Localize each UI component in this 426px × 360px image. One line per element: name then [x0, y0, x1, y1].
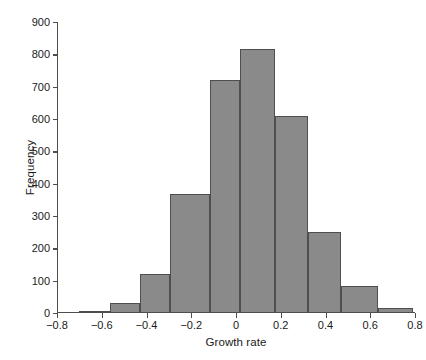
histogram-bar [170, 194, 210, 313]
x-tick-mark [236, 313, 237, 318]
y-tick-mark [53, 22, 58, 23]
y-axis-line [57, 22, 58, 313]
x-tick-label: 0.4 [318, 319, 333, 331]
histogram-bar [240, 49, 275, 313]
x-tick-label: −0.6 [91, 319, 113, 331]
y-tick-mark [53, 151, 58, 152]
y-tick-mark [53, 119, 58, 120]
x-tick-mark [326, 313, 327, 318]
x-tick-mark [57, 313, 58, 318]
histogram-bar [341, 286, 378, 313]
y-tick-mark [53, 281, 58, 282]
y-tick-label: 500 [32, 145, 50, 157]
y-tick-label: 0 [44, 307, 50, 319]
y-tick-label: 300 [32, 210, 50, 222]
y-tick-label: 700 [32, 81, 50, 93]
x-tick-label: −0.2 [180, 319, 202, 331]
x-tick-mark [281, 313, 282, 318]
histogram-bar [140, 274, 170, 313]
plot-area: 0100200300400500600700800900 −0.8−0.6−0.… [57, 22, 415, 313]
x-tick-label: 0.6 [363, 319, 378, 331]
x-tick-mark [415, 313, 416, 318]
x-tick-mark [191, 313, 192, 318]
x-tick-label: −0.8 [46, 319, 68, 331]
y-tick-mark [53, 184, 58, 185]
x-tick-label: 0.8 [407, 319, 422, 331]
x-tick-label: 0 [233, 319, 239, 331]
x-tick-mark [147, 313, 148, 318]
histogram-bar [110, 303, 140, 313]
x-tick-mark [102, 313, 103, 318]
y-tick-label: 200 [32, 242, 50, 254]
histogram-bar [79, 311, 109, 313]
y-tick-mark [53, 216, 58, 217]
histogram-bar [275, 116, 307, 313]
x-tick-mark [370, 313, 371, 318]
y-axis-label: Frequency [22, 22, 38, 313]
y-tick-label: 400 [32, 178, 50, 190]
y-tick-mark [53, 248, 58, 249]
histogram-bar [210, 80, 240, 313]
histogram-bar [308, 232, 342, 313]
y-tick-label: 100 [32, 275, 50, 287]
y-tick-label: 900 [32, 16, 50, 28]
y-tick-label: 800 [32, 48, 50, 60]
y-tick-mark [53, 87, 58, 88]
x-tick-label: −0.4 [136, 319, 158, 331]
x-axis-label: Growth rate [57, 336, 415, 348]
x-tick-label: 0.2 [273, 319, 288, 331]
histogram-bar [378, 308, 413, 313]
y-tick-label: 600 [32, 113, 50, 125]
histogram-chart: Frequency Growth rate 010020030040050060… [0, 0, 426, 360]
y-tick-mark [53, 54, 58, 55]
